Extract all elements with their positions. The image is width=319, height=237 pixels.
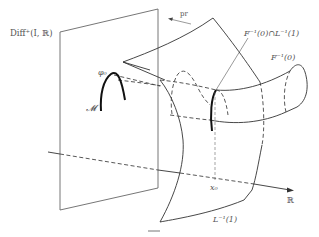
diagram-canvas: Diff+(I, ℝ) pr ℝ L⁻¹(1) — [0, 0, 319, 237]
L-inverse-label: L⁻¹(1) — [212, 215, 237, 224]
diff-space-label: Diff+(I, ℝ) — [10, 28, 53, 38]
F-inverse-label: F⁻¹(0) — [270, 53, 295, 62]
F-inverse-surface — [118, 65, 307, 123]
projection-arrow — [168, 18, 191, 25]
manifold-label: 𝓜 — [86, 103, 99, 113]
phi0-label: φ₀ — [98, 68, 108, 77]
x0-label: x₀ — [210, 183, 219, 192]
intersection-pointer — [216, 38, 248, 90]
projection-label: pr — [180, 10, 188, 18]
reals-label: ℝ — [287, 195, 294, 205]
intersection-label: F⁻¹(0)∩L⁻¹(1) — [243, 29, 299, 38]
manifold-curve — [101, 73, 125, 111]
diff-plane — [60, 9, 158, 210]
real-axis — [48, 152, 294, 193]
intersection-curve — [211, 90, 228, 131]
